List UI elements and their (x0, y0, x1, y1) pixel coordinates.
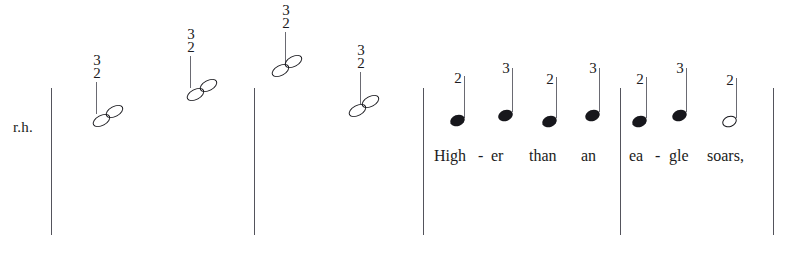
barline-1 (51, 88, 52, 235)
lyric-syllable-2: - (478, 147, 483, 165)
lyric-syllable-3: er (491, 147, 503, 165)
fingering-stacked-4: 32 (354, 44, 368, 69)
dyad-notehead-pair (348, 94, 382, 118)
dyad-notehead-pair (92, 104, 126, 128)
fingering-digit-1: 2 (451, 72, 465, 85)
barline-4 (620, 88, 621, 235)
barline-5 (773, 88, 774, 235)
barline-2 (254, 88, 255, 235)
dyad-notehead-pair (271, 54, 305, 78)
note-stem (646, 77, 647, 118)
lyric-syllable-5: an (581, 147, 596, 165)
note-stem (599, 68, 600, 112)
fingering-digit-7: 2 (723, 74, 737, 87)
fingering-digit-3: 2 (543, 73, 557, 86)
fingering-lower-digit: 2 (90, 67, 104, 80)
note-stem (464, 76, 465, 118)
dyad-notehead-pair (186, 78, 220, 102)
music-notation-sheet: r.h. 32323232 2323232 High-erthananea-gl… (0, 0, 798, 264)
lyric-syllable-7: - (655, 147, 660, 165)
lyric-syllable-9: soars, (707, 147, 744, 165)
note-stem (736, 78, 737, 118)
note-stem (512, 68, 513, 112)
lyric-syllable-4: than (529, 147, 557, 165)
fingering-digit-2: 3 (499, 62, 513, 75)
right-hand-label: r.h. (13, 119, 33, 136)
fingering-lower-digit: 2 (184, 41, 198, 54)
fingering-stacked-1: 32 (90, 54, 104, 79)
barline-3 (423, 88, 424, 235)
note-stem (556, 77, 557, 118)
lyric-syllable-1: High (434, 147, 466, 165)
fingering-lower-digit: 2 (354, 57, 368, 70)
fingering-lower-digit: 2 (279, 17, 293, 30)
fingering-stacked-2: 32 (184, 28, 198, 53)
fingering-digit-6: 3 (673, 62, 687, 75)
fingering-digit-4: 3 (586, 62, 600, 75)
lyric-syllable-8: gle (669, 147, 689, 165)
note-stem (686, 68, 687, 112)
fingering-digit-5: 2 (633, 73, 647, 86)
lyric-syllable-6: ea (629, 147, 643, 165)
fingering-stacked-3: 32 (279, 4, 293, 29)
